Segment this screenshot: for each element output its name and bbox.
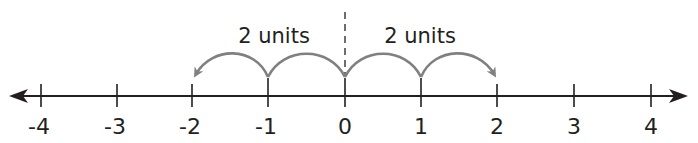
left-jump-arcs	[196, 53, 345, 77]
tick-label: 0	[338, 114, 352, 139]
tick-label: 1	[414, 114, 428, 139]
arc-neg1-to-neg2	[196, 53, 268, 77]
tick-label: 2	[490, 114, 504, 139]
number-line-diagram: -4 -3 -2 -1 0 1 2 3 4 2 units 2 units	[0, 0, 698, 143]
tick-label: -2	[179, 114, 201, 139]
arc-1-to-2	[421, 53, 494, 77]
arc-0-to-1	[345, 54, 421, 77]
left-jump-label: 2 units	[238, 24, 310, 48]
tick-label: -3	[104, 114, 126, 139]
right-jump-arcs	[345, 53, 494, 77]
tick-labels: -4 -3 -2 -1 0 1 2 3 4	[28, 114, 658, 139]
tick-label: -4	[28, 114, 50, 139]
arc-0-to-neg1	[268, 54, 345, 77]
tick-label: 3	[567, 114, 581, 139]
ticks	[41, 78, 651, 107]
tick-label: -1	[255, 114, 277, 139]
tick-label: 4	[644, 114, 658, 139]
right-jump-label: 2 units	[384, 24, 456, 48]
